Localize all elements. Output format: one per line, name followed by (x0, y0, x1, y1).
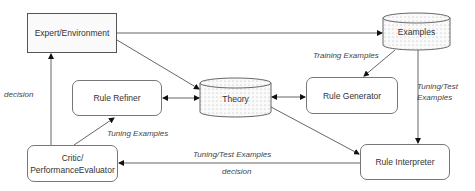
rule-refiner-node: Rule Refiner (72, 80, 162, 116)
rule-generator-node: Rule Generator (306, 77, 398, 114)
training-examples-label: Training Examples (313, 51, 379, 61)
examples-node: Examples (383, 27, 450, 37)
expert-environment-node: Expert/Environment (27, 13, 117, 53)
rule-refiner-label: Rule Refiner (93, 92, 140, 104)
rule-generator-label: Rule Generator (323, 90, 381, 102)
examples-label: Examples (398, 27, 435, 37)
decision-bottom-label: decision (222, 167, 251, 177)
theory-node: Theory (200, 94, 271, 104)
theory-label: Theory (222, 94, 248, 104)
critic-label-line2: PerformanceEvaluator (30, 164, 115, 176)
critic-label-line1: Critic/ (62, 152, 84, 164)
tuning-test-examples-right-line1: Tuning/Test (417, 82, 458, 92)
learning-system-diagram: Expert/Environment Examples Theory Rule … (0, 0, 475, 191)
expert-environment-label: Expert/Environment (35, 27, 110, 39)
decision-left-label: decision (4, 90, 33, 100)
tuning-test-examples-bottom-label: Tuning/Test Examples (193, 150, 271, 160)
rule-interpreter-label: Rule Interpreter (375, 156, 434, 168)
tuning-examples-label: Tuning Examples (107, 129, 168, 139)
tuning-test-examples-right-line2: Examples (417, 93, 452, 103)
critic-performance-evaluator-node: Critic/ PerformanceEvaluator (27, 145, 118, 182)
rule-interpreter-node: Rule Interpreter (360, 144, 450, 180)
